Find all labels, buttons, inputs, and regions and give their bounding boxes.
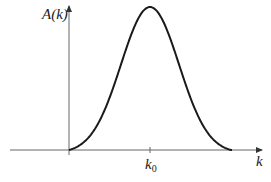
k0-tick-label: k0 [145, 156, 157, 174]
gaussian-curve [69, 7, 232, 150]
diagram-canvas: A(k) k k0 [0, 0, 271, 182]
x-axis-label: k [256, 153, 263, 169]
k0-subscript: 0 [152, 163, 157, 174]
y-axis-label: A(k) [41, 6, 68, 23]
